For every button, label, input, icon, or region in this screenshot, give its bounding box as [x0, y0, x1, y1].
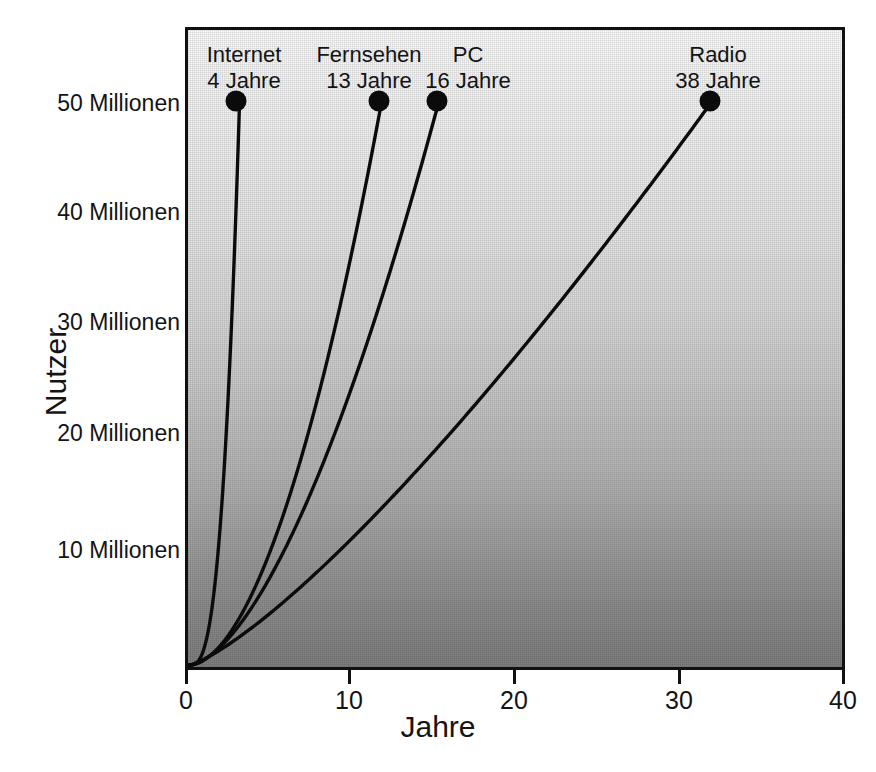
- chart-figure: 50 Millionen 40 Millionen 30 Millionen 2…: [0, 0, 876, 772]
- endpoint-dot-pc: [427, 91, 448, 112]
- curve-internet: [189, 103, 240, 665]
- xtick-mark-20: [513, 670, 516, 684]
- y-axis-title: Nutzer: [39, 272, 73, 472]
- endpoint-dot-radio: [700, 91, 721, 112]
- plot-area: [185, 27, 845, 670]
- endpoint-dot-internet: [226, 91, 247, 112]
- xtick-mark-0: [185, 670, 188, 684]
- curve-pc: [189, 103, 438, 665]
- ytick-label-10: 10 Millionen: [20, 539, 180, 562]
- x-axis-title: Jahre: [0, 710, 876, 744]
- xtick-mark-30: [678, 670, 681, 684]
- ytick-label-50: 50 Millionen: [20, 92, 180, 115]
- endpoint-dot-fernsehen: [369, 91, 390, 112]
- ytick-label-40: 40 Millionen: [20, 201, 180, 224]
- series-curves: [188, 30, 842, 667]
- xtick-mark-10: [348, 670, 351, 684]
- xtick-mark-40: [842, 670, 845, 684]
- page-footer-clipped-text: [0, 765, 876, 772]
